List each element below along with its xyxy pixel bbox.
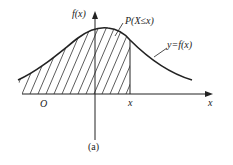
y-axis-arrow-icon [92, 11, 98, 19]
density-curve [18, 28, 192, 80]
curve-label: y=f(x) [166, 39, 193, 51]
density-figure: f(x) P(X≤x) y=f(x) O x x (a) [0, 0, 233, 165]
figure-caption: (a) [88, 141, 99, 153]
x-marker-label: x [127, 97, 133, 108]
shaded-region-label: P(X≤x) [124, 15, 154, 27]
origin-label: O [40, 98, 47, 109]
hatched-area [14, 24, 156, 94]
curve-label-leader [154, 48, 167, 57]
y-axis-label: f(x) [72, 8, 87, 20]
x-axis-label: x [207, 97, 213, 108]
